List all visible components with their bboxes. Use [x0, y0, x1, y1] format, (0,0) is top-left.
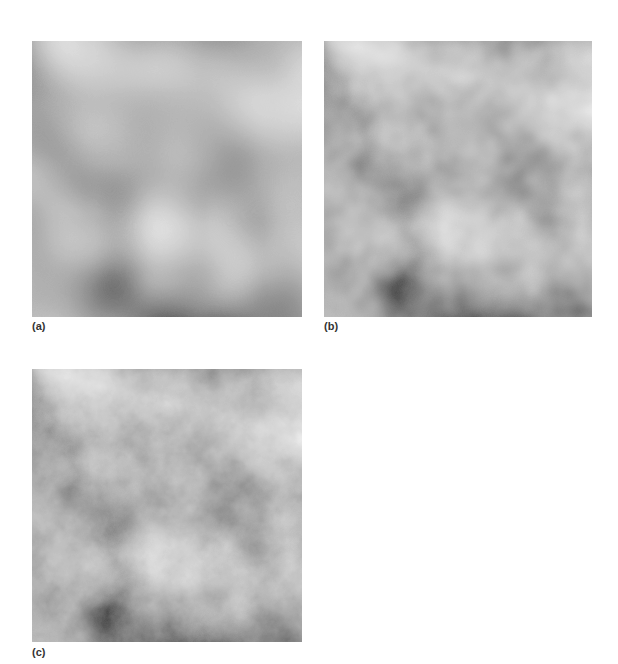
noise-texture-a [32, 41, 302, 317]
panel-caption-c: (c) [32, 646, 45, 658]
noise-panel-b [324, 41, 592, 317]
running-head [564, 0, 590, 4]
noise-layer-c [32, 369, 302, 642]
noise-texture-c [32, 369, 302, 642]
noise-layer-b [324, 41, 592, 317]
panel-caption-b: (b) [324, 320, 338, 332]
noise-layer-a [32, 41, 302, 317]
noise-panel-a [32, 41, 302, 317]
panel-caption-a: (a) [32, 320, 45, 332]
noise-texture-b [324, 41, 592, 317]
noise-panel-c [32, 369, 302, 642]
